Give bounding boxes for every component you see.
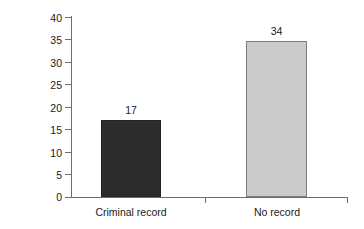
- bar-chart: Percentage called back 40 35 30 25 20 15…: [0, 0, 364, 229]
- x-axis-tick-mark-middle: [205, 198, 206, 203]
- value-label-no-record: 34: [246, 26, 307, 37]
- x-axis-tick-mark-end: [347, 198, 348, 203]
- y-axis-tick-marks: [0, 0, 364, 229]
- x-axis-label-criminal-record: Criminal record: [81, 206, 181, 218]
- bar-no-record: [246, 41, 307, 197]
- value-label-criminal-record: 17: [101, 105, 161, 116]
- x-axis-line: [71, 197, 348, 198]
- x-axis-label-no-record: No record: [236, 206, 318, 218]
- y-axis-line: [71, 16, 72, 198]
- bar-criminal-record: [101, 120, 161, 197]
